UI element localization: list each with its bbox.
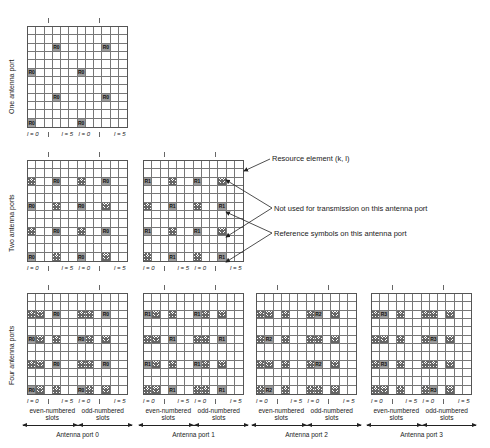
legend-arrows	[0, 0, 490, 448]
